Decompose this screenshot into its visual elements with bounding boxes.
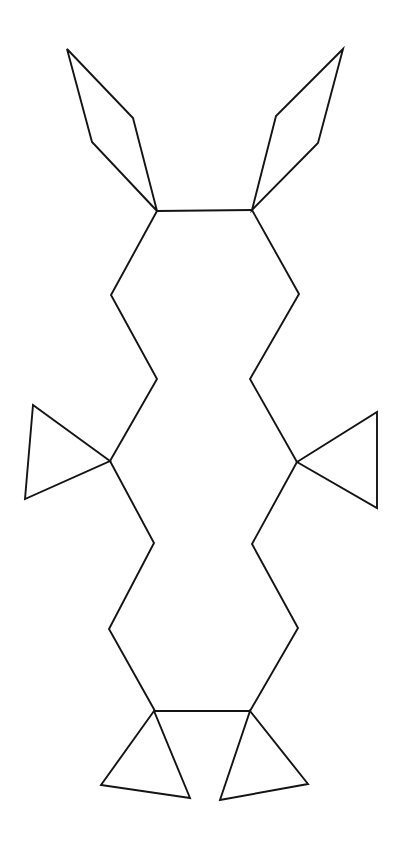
figure-svg — [0, 0, 405, 845]
drawing-canvas — [0, 0, 405, 845]
head-top-edge — [157, 210, 252, 211]
canvas-background — [0, 0, 405, 845]
